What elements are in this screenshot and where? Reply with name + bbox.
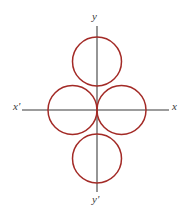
y-axis-label-top: y — [92, 11, 97, 22]
x-axis-label-left: x' — [13, 101, 20, 112]
y-axis-label-bottom: y' — [92, 194, 99, 205]
figure-canvas — [0, 0, 191, 212]
axes-group — [22, 26, 169, 192]
x-axis-label-right: x — [172, 101, 177, 112]
rose-curve-figure: x' x y y' — [0, 0, 191, 212]
